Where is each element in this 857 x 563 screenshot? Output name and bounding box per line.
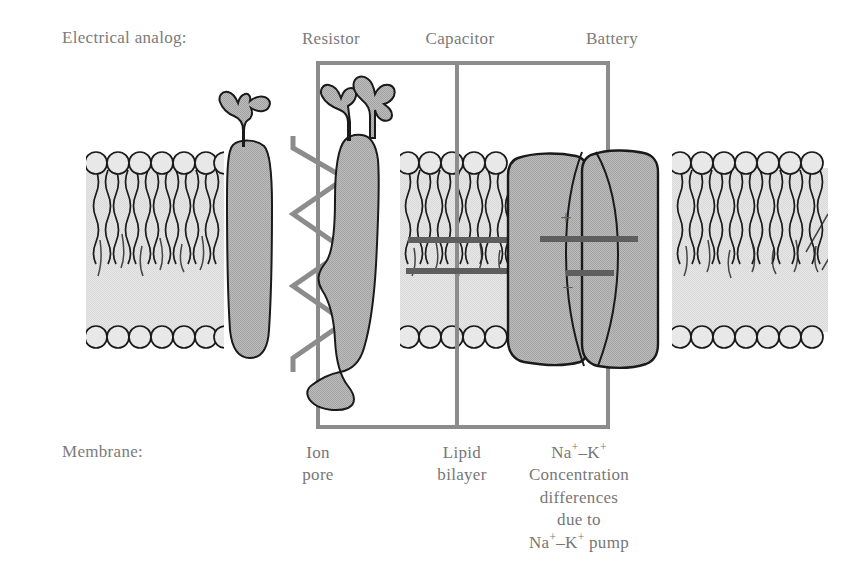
label-ion-pore-line1: Ion [268,442,368,464]
label-pump-line3: differences [498,487,660,509]
label-lipid-bilayer: Lipid bilayer [412,442,512,487]
ion-pore-protein-small [219,92,272,358]
label-battery: Battery [556,28,668,50]
na-text: Na [551,443,571,462]
label-ion-pore-line2: pore [268,464,368,486]
formula-dash-top: – [579,443,588,462]
na-plus-sup: + [572,441,579,454]
pump-word: pump [584,533,628,552]
label-ion-pore: Ion pore [268,442,368,487]
label-lipid-line1: Lipid [412,442,512,464]
label-capacitor: Capacitor [404,28,516,50]
ion-pore-protein-large [307,77,394,410]
na-k-pump-protein: + − [508,150,658,367]
label-resistor: Resistor [276,28,386,50]
battery-plus-symbol: + [560,207,571,229]
lipid-bilayer-right [669,152,842,348]
label-lipid-line2: bilayer [412,464,512,486]
battery-long-plate [540,236,638,242]
label-pump-formula-top: Na+–K+ [498,442,660,464]
k-plus-sup: + [600,441,607,454]
membrane-row-label: Membrane: [62,442,143,462]
lipid-bilayer-left [85,152,236,348]
label-pump-line2: Concentration [498,464,660,486]
k-text: K [587,443,600,462]
label-na-k-pump: Na+–K+ Concentration differences due to … [498,442,660,554]
na-text-2: Na [529,533,549,552]
formula-dash-bottom: – [556,533,565,552]
battery-minus-symbol: − [562,276,573,298]
diagram-canvas: + − Electrical analog: Resistor Capacito… [0,0,857,563]
label-pump-line4: due to [498,509,660,531]
k-text-2: K [565,533,578,552]
electrical-analog-row-label: Electrical analog: [62,28,187,48]
lipid-bilayer-middle [397,152,512,348]
label-pump-formula-bottom: Na+–K+ pump [498,532,660,554]
